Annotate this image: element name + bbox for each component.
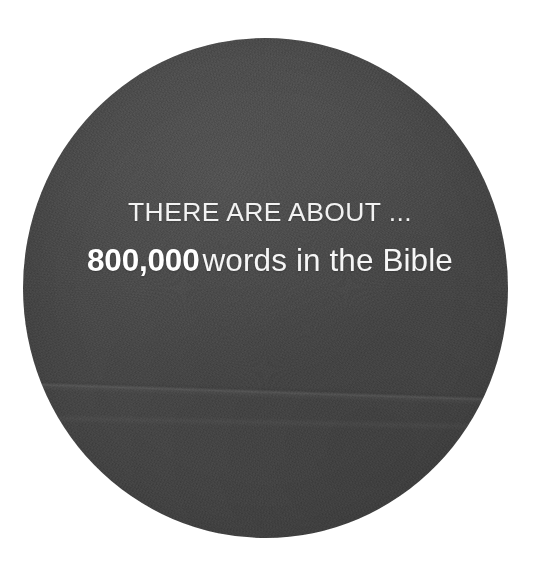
circle-shading-overlay: [23, 38, 508, 538]
circle-grain-texture: [23, 38, 508, 538]
infographic-canvas: THERE ARE ABOUT ... 800,000words in the …: [0, 0, 540, 576]
circle-crease-line: [23, 376, 508, 406]
circle-secondary-crease-line: [23, 413, 508, 432]
circle-fine-grain-texture: [23, 38, 508, 538]
fact-circle: [23, 38, 508, 538]
